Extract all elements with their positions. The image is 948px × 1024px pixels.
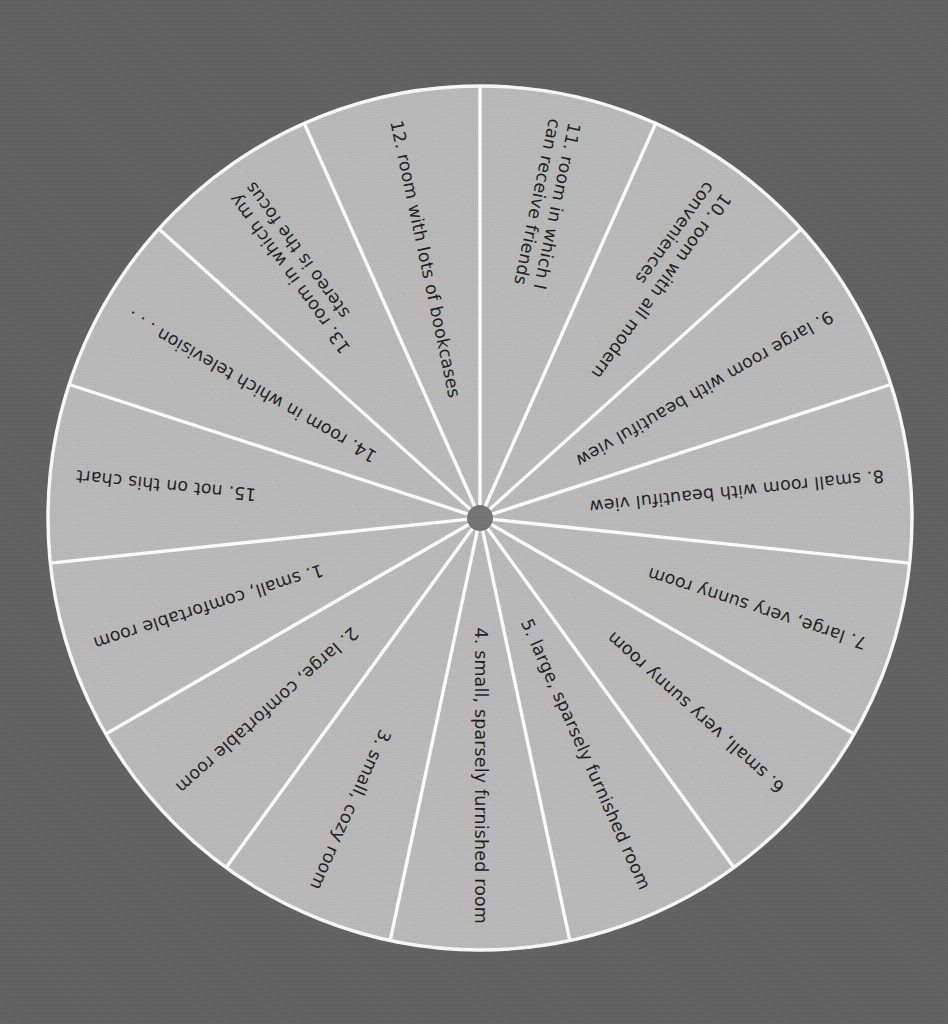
wheel-container: 1. small, comfortable room2. large, comf… (0, 0, 948, 1024)
pie-slice-label-4[interactable]: 4. small, sparsely furnished room (471, 627, 491, 924)
pie-hub-circle[interactable] (467, 505, 493, 531)
pie-slice-label-text: 4. small, sparsely furnished room (471, 627, 491, 924)
pie-wheel-svg[interactable]: 1. small, comfortable room2. large, comf… (0, 0, 948, 1024)
pie-chart-page: 1. small, comfortable room2. large, comf… (0, 0, 948, 1024)
pie-hub (467, 505, 493, 531)
